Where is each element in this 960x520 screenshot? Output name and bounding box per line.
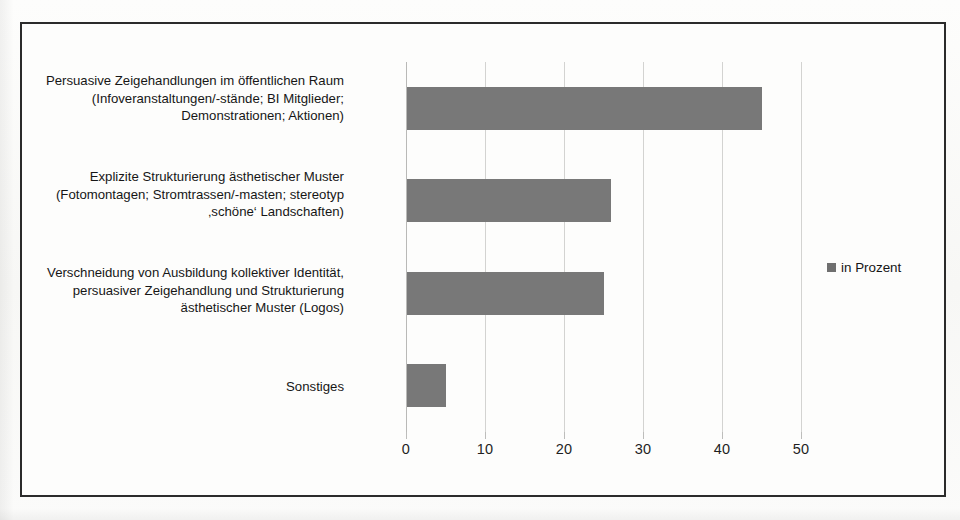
- bar: [407, 364, 446, 407]
- category-label-0: Persuasive Zeigehandlungen im öffentlich…: [0, 72, 344, 125]
- tick-mark: [564, 432, 565, 439]
- tick-mark: [485, 432, 486, 439]
- x-tick-label: 0: [402, 441, 410, 457]
- bar: [407, 87, 762, 130]
- chart-page: Persuasive Zeigehandlungen im öffentlich…: [0, 0, 960, 520]
- legend-label: in Prozent: [841, 260, 901, 275]
- category-label-3: Sonstiges: [0, 378, 344, 396]
- category-label-1: Explizite Strukturierung ästhetischer Mu…: [0, 168, 344, 221]
- category-label-2: Verschneidung von Ausbildung kollektiver…: [0, 264, 344, 317]
- x-tick-label: 10: [477, 441, 494, 457]
- plot-area: 01020304050: [406, 62, 801, 432]
- x-tick-label: 50: [793, 441, 810, 457]
- tick-mark: [406, 432, 407, 439]
- gridline: [801, 62, 802, 432]
- bar: [407, 272, 604, 315]
- x-tick-label: 20: [556, 441, 573, 457]
- x-tick-label: 40: [714, 441, 731, 457]
- chart-frame: Persuasive Zeigehandlungen im öffentlich…: [20, 22, 946, 497]
- scan-edge-bottom: [0, 508, 960, 520]
- tick-mark: [643, 432, 644, 439]
- x-tick-label: 30: [635, 441, 652, 457]
- bar: [407, 179, 611, 222]
- legend: in Prozent: [827, 260, 901, 275]
- tick-mark: [801, 432, 802, 439]
- tick-mark: [722, 432, 723, 439]
- legend-swatch-icon: [827, 263, 836, 272]
